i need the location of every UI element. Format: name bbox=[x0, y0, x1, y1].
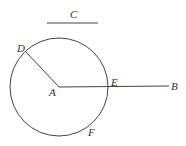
label-a: A bbox=[48, 86, 56, 98]
label-e: E bbox=[110, 76, 118, 88]
label-d: D bbox=[16, 42, 25, 54]
label-c: C bbox=[70, 8, 78, 20]
label-f: F bbox=[87, 126, 95, 138]
label-b: B bbox=[171, 80, 178, 92]
geometry-diagram: C D A E B F bbox=[0, 0, 186, 146]
segment-ad bbox=[26, 52, 59, 87]
